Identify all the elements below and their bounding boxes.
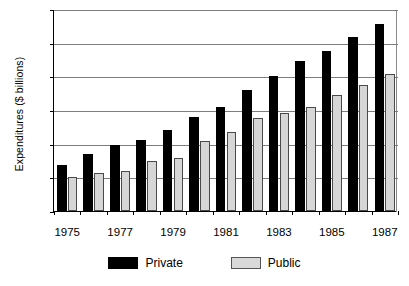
bar-public-1987 xyxy=(385,74,395,211)
x-tick-mark xyxy=(266,211,267,215)
plot-area: 050100150200250300 197519771979198119831… xyxy=(53,10,397,212)
x-tick-mark xyxy=(54,211,55,215)
x-tick-mark xyxy=(319,211,320,215)
legend-item-private: Private xyxy=(108,256,182,270)
bar-private-1982 xyxy=(242,90,252,211)
x-tick-mark xyxy=(239,211,240,215)
bar-private-1975 xyxy=(57,165,67,211)
bar-public-1984 xyxy=(306,107,316,211)
bar-group xyxy=(213,9,239,211)
chart-legend: PrivatePublic xyxy=(0,256,409,270)
bar-private-1977 xyxy=(110,145,120,211)
x-tick-mark xyxy=(107,211,108,215)
x-tick-mark xyxy=(160,211,161,215)
x-tick-mark xyxy=(133,211,134,215)
bar-private-1987 xyxy=(375,24,385,211)
x-tick-mark xyxy=(292,211,293,215)
bar-group xyxy=(345,9,371,211)
bar-group xyxy=(54,9,80,211)
x-tick-label-1985: 1985 xyxy=(310,226,354,238)
bar-private-1983 xyxy=(269,76,279,211)
x-tick-label-1983: 1983 xyxy=(257,226,301,238)
x-tick-mark xyxy=(372,211,373,215)
bar-group xyxy=(160,9,186,211)
bar-private-1976 xyxy=(83,154,93,211)
bar-group xyxy=(133,9,159,211)
bar-public-1979 xyxy=(174,158,184,211)
bar-public-1976 xyxy=(94,173,104,211)
bar-group xyxy=(372,9,398,211)
legend-label-private: Private xyxy=(145,256,182,270)
bar-group xyxy=(186,9,212,211)
bar-private-1979 xyxy=(163,130,173,211)
bar-public-1982 xyxy=(253,118,263,211)
x-tick-label-1981: 1981 xyxy=(204,226,248,238)
bar-public-1980 xyxy=(200,141,210,211)
bar-group xyxy=(319,9,345,211)
bar-chart: Expenditures ($ billions) 05010015020025… xyxy=(0,0,409,286)
bar-group xyxy=(239,9,265,211)
y-axis-title: Expenditures ($ billions) xyxy=(13,29,25,199)
bar-public-1977 xyxy=(121,171,131,211)
bar-group xyxy=(292,9,318,211)
legend-item-public: Public xyxy=(231,256,301,270)
bar-public-1983 xyxy=(280,113,290,211)
legend-label-public: Public xyxy=(268,256,301,270)
x-tick-mark xyxy=(345,211,346,215)
bar-public-1981 xyxy=(227,132,237,211)
bar-private-1984 xyxy=(295,61,305,211)
bar-group xyxy=(107,9,133,211)
x-tick-mark xyxy=(80,211,81,215)
x-tick-label-1975: 1975 xyxy=(45,226,89,238)
bar-private-1986 xyxy=(348,37,358,211)
bar-group xyxy=(266,9,292,211)
bar-private-1981 xyxy=(216,107,226,211)
x-tick-mark xyxy=(186,211,187,215)
bar-private-1980 xyxy=(189,117,199,211)
x-tick-mark xyxy=(213,211,214,215)
bar-public-1986 xyxy=(359,85,369,211)
bar-public-1978 xyxy=(147,161,157,212)
bar-private-1978 xyxy=(136,140,146,211)
legend-swatch-private xyxy=(108,257,138,269)
x-tick-label-1977: 1977 xyxy=(98,226,142,238)
bar-group xyxy=(80,9,106,211)
bar-private-1985 xyxy=(322,51,332,211)
bar-public-1985 xyxy=(332,95,342,211)
legend-swatch-public xyxy=(231,257,261,269)
x-tick-label-1979: 1979 xyxy=(151,226,195,238)
x-tick-label-1987: 1987 xyxy=(363,226,407,238)
bar-public-1975 xyxy=(68,177,78,211)
x-tick-mark xyxy=(398,211,399,215)
